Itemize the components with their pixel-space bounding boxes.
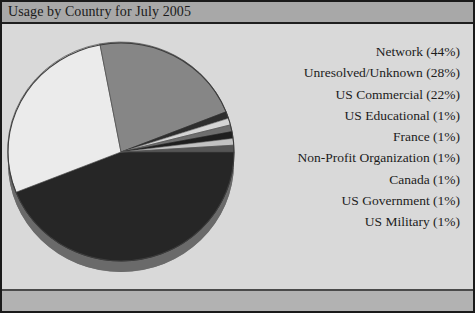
chart-window: Network (44%) Unresolved/Unknown (28%) U… (0, 0, 475, 313)
window-frame (0, 0, 475, 313)
